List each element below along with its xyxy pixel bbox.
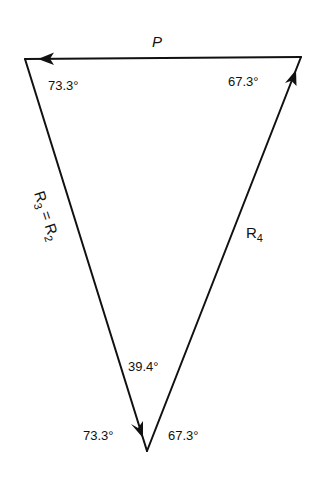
vector-P-line — [25, 57, 301, 59]
vector-R4-line — [147, 57, 301, 451]
label-R4: R4 — [246, 224, 263, 244]
angle-bottom-interior: 39.4° — [128, 359, 159, 374]
arrowhead-R3-icon — [131, 421, 143, 438]
svg-text:R4: R4 — [246, 224, 263, 244]
label-R3-equals-R2: R3 = R2 — [28, 189, 63, 244]
force-triangle-diagram: P R4 R3 = R2 73.3° 67.3° 39.4° 73.3° 67.… — [0, 0, 309, 479]
svg-text:R3 = R2: R3 = R2 — [28, 189, 63, 244]
angle-top-left: 73.3° — [48, 78, 79, 93]
angle-bottom-right: 67.3° — [168, 428, 199, 443]
angle-bottom-left: 73.3° — [83, 428, 114, 443]
vector-R3-line — [25, 59, 147, 451]
label-P: P — [152, 33, 162, 50]
angle-top-right: 67.3° — [228, 74, 259, 89]
